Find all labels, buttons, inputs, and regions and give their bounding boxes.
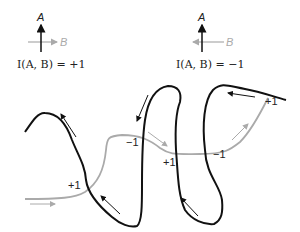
direction-arrow-a5 — [228, 93, 255, 97]
label-b-positive: B — [60, 36, 67, 48]
crossing-label-3: +1 — [163, 156, 176, 168]
direction-arrow-a3 — [101, 196, 120, 214]
curve-a — [25, 85, 286, 226]
equation-positive: I(A, B) = +1 — [17, 58, 85, 71]
label-a-positive: A — [36, 11, 44, 23]
crossing-label-2: −1 — [126, 136, 139, 148]
crossing-label-4: −1 — [213, 148, 226, 160]
label-b-negative: B — [226, 36, 233, 48]
label-a-negative: A — [197, 11, 205, 23]
intersection-number-diagram: A B I(A, B) = +1 A B I(A, B) = −1 +1 −1 … — [0, 0, 300, 232]
direction-arrow-b2 — [148, 132, 167, 146]
crossing-label-1: +1 — [68, 179, 81, 191]
direction-arrow-b3 — [232, 124, 248, 140]
equation-negative: I(A, B) = −1 — [176, 58, 244, 71]
crossing-label-5: +1 — [265, 95, 278, 107]
legend-negative: A B I(A, B) = −1 — [176, 11, 244, 71]
legend-positive: A B I(A, B) = +1 — [17, 11, 85, 71]
